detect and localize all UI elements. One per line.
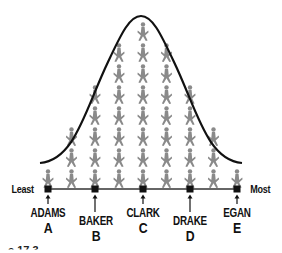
person-icon [89,169,100,188]
person-icon [231,169,242,188]
person-icon [66,169,77,188]
person-icon [208,127,219,146]
person-icon [113,148,124,167]
marker-square-icon [187,186,194,193]
person-icon [89,106,100,125]
person-icon [137,106,148,125]
person-icon [161,169,172,188]
arrowhead-icon [141,195,146,199]
person-icon [161,148,172,167]
person-icon [161,106,172,125]
person-icon [113,85,124,104]
person-icon [208,169,219,188]
marker-letter-c: C [131,220,156,235]
person-icon [66,148,77,167]
person-icon [137,43,148,62]
person-icon [89,127,100,146]
person-icon [89,148,100,167]
person-icon [137,64,148,83]
person-icon [137,148,148,167]
marker-square-icon [234,186,241,193]
marker-square-icon [140,186,147,193]
person-icon [137,22,148,41]
arrowhead-icon [46,195,51,199]
person-icon [137,85,148,104]
person-icon [113,127,124,146]
axis-label-least: Least [11,183,33,195]
person-icon [161,64,172,83]
person-icon [161,127,172,146]
marker-square-icon [45,186,52,193]
person-icon [42,169,53,188]
arrowhead-icon [188,195,193,199]
person-icon [113,64,124,83]
marker-letter-d: D [178,228,203,243]
marker-letter-b: B [84,228,109,243]
person-icon [113,106,124,125]
person-icon [113,169,124,188]
person-icon [161,85,172,104]
person-icon [184,169,195,188]
person-icon [137,169,148,188]
marker-square-icon [92,186,99,193]
axis-label-most: Most [250,183,270,195]
person-icon [137,127,148,146]
person-icon [184,127,195,146]
arrowhead-icon [93,195,98,199]
arrowhead-icon [235,195,240,199]
marker-letter-e: E [225,220,250,235]
marker-letter-a: A [36,220,61,235]
person-icon [184,148,195,167]
people-figures [42,22,242,188]
